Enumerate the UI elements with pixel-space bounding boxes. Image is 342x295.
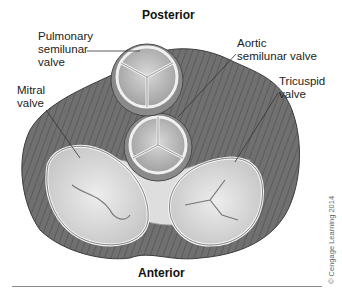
bottom-rule [12, 286, 322, 287]
posterior-label: Posterior [142, 8, 195, 22]
pulmonary-valve [111, 44, 183, 116]
label-mitral-valve: Mitral valve [17, 84, 45, 110]
label-tricuspid-valve: Tricuspid valve [279, 75, 325, 101]
label-aortic-valve: Aortic semilunar valve [237, 37, 317, 63]
anterior-label: Anterior [138, 266, 185, 280]
heart-valves-diagram: Posterior Anterior Pulmonary semilunar v… [0, 0, 342, 295]
label-pulmonary-valve: Pulmonary semilunar valve [38, 30, 93, 69]
copyright-credit: © Cengage Learning 2014 [327, 196, 336, 284]
aortic-valve [124, 113, 192, 181]
